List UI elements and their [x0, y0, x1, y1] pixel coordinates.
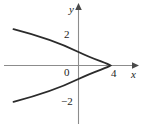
parabola-figure: 2 0 −2 4 x y — [0, 0, 146, 130]
coordinate-plot — [0, 0, 146, 130]
y-axis-arrowhead — [75, 3, 82, 10]
y-tick-label-2: 2 — [64, 29, 70, 40]
origin-label: 0 — [64, 67, 70, 78]
y-axis-label: y — [69, 4, 74, 15]
x-axis-label: x — [131, 69, 136, 80]
y-tick-label-minus-2: −2 — [61, 96, 73, 107]
x-tick-label-4: 4 — [111, 68, 117, 79]
